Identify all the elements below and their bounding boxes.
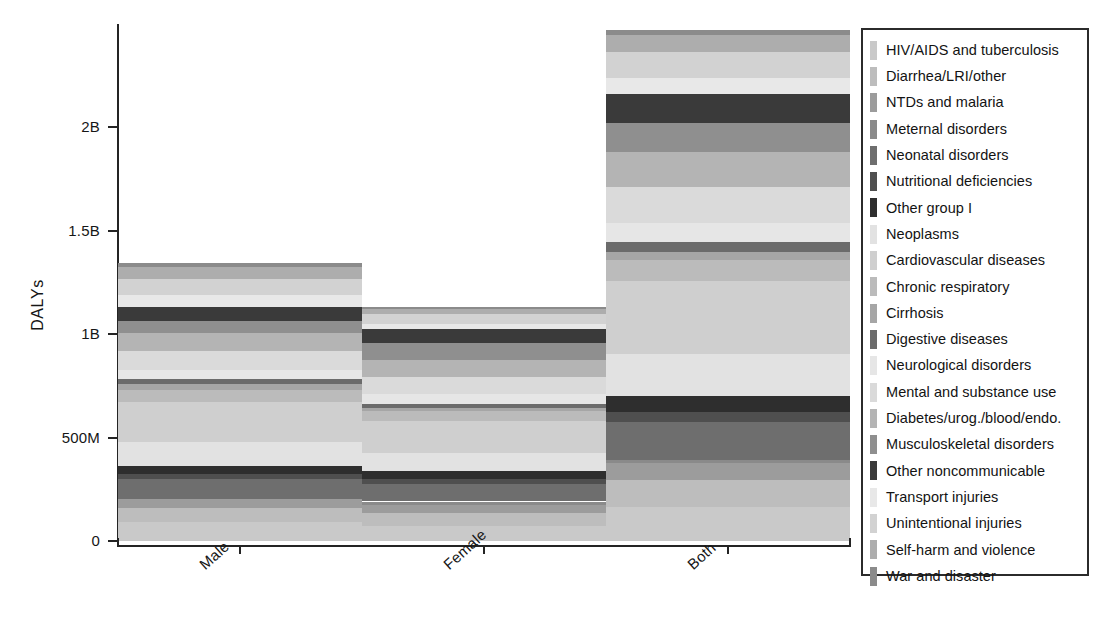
bar-group-female[interactable] (362, 24, 606, 541)
legend-swatch-icon (870, 41, 877, 60)
bar-segment[interactable] (362, 324, 606, 329)
bar-segment[interactable] (606, 252, 850, 260)
legend-item[interactable]: Self-harm and violence (863, 537, 1087, 563)
bar-segment[interactable] (362, 343, 606, 359)
legend-item[interactable]: War and disaster (863, 563, 1087, 589)
bar-segment[interactable] (362, 408, 606, 411)
legend-item[interactable]: HIV/AIDS and tuberculosis (863, 37, 1087, 63)
legend-item[interactable]: Unintentional injuries (863, 510, 1087, 536)
bar-segment[interactable] (606, 463, 850, 479)
legend-item-label: Mental and substance use (886, 385, 1056, 400)
bar-segment[interactable] (362, 394, 606, 404)
bar-segment[interactable] (118, 522, 362, 541)
bar-segment[interactable] (362, 314, 606, 324)
legend-item[interactable]: Chronic respiratory (863, 274, 1087, 300)
bar-segment[interactable] (362, 411, 606, 421)
bar-segment[interactable] (606, 223, 850, 241)
bar-segment[interactable] (118, 307, 362, 321)
bar-segment[interactable] (118, 479, 362, 499)
legend-item[interactable]: NTDs and malaria (863, 90, 1087, 116)
bar-segment[interactable] (118, 279, 362, 295)
legend-item-label: Nutritional deficiencies (886, 174, 1032, 189)
legend-swatch-icon (870, 67, 877, 86)
bar-segment[interactable] (362, 404, 606, 409)
bar-segment[interactable] (118, 333, 362, 351)
y-tick-mark (108, 333, 117, 335)
bar-segment[interactable] (362, 453, 606, 471)
y-tick-label: 1.5B (30, 222, 100, 239)
legend-item[interactable]: Musculoskeletal disorders (863, 431, 1087, 457)
bar-segment[interactable] (606, 281, 850, 354)
bar-segment[interactable] (362, 329, 606, 344)
legend-item[interactable]: Meternal disorders (863, 116, 1087, 142)
bar-group-both[interactable] (606, 24, 850, 541)
bar-segment[interactable] (118, 402, 362, 442)
legend-item[interactable]: Nutritional deficiencies (863, 168, 1087, 194)
legend-item[interactable]: Cirrhosis (863, 300, 1087, 326)
bar-segment[interactable] (606, 35, 850, 52)
legend-item[interactable]: Neoplasms (863, 221, 1087, 247)
bar-segment[interactable] (118, 295, 362, 307)
bar-segment[interactable] (606, 78, 850, 94)
bar-segment[interactable] (606, 396, 850, 413)
legend-item-label: Other group I (886, 201, 972, 216)
legend-item[interactable]: Digestive diseases (863, 326, 1087, 352)
bar-segment[interactable] (118, 499, 362, 508)
bar-segment[interactable] (606, 260, 850, 281)
bar-segment[interactable] (118, 321, 362, 333)
bar-segment[interactable] (118, 267, 362, 279)
legend-item[interactable]: Diarrhea/LRI/other (863, 63, 1087, 89)
bar-segment[interactable] (606, 94, 850, 123)
bar-segment[interactable] (606, 187, 850, 223)
bar-segment[interactable] (606, 152, 850, 187)
bar-segment[interactable] (118, 390, 362, 402)
bar-segment[interactable] (118, 442, 362, 466)
bar-segment[interactable] (362, 309, 606, 315)
legend-swatch-icon (870, 251, 877, 270)
bar-segment[interactable] (362, 360, 606, 378)
bar-segment[interactable] (362, 421, 606, 454)
bar-segment[interactable] (118, 384, 362, 390)
legend-item[interactable]: Neonatal disorders (863, 142, 1087, 168)
legend-item[interactable]: Other noncommunicable (863, 458, 1087, 484)
legend-item[interactable]: Diabetes/urog./blood/endo. (863, 405, 1087, 431)
bar-segment[interactable] (118, 379, 362, 385)
legend-swatch-icon (870, 461, 877, 480)
bar-segment[interactable] (606, 460, 850, 464)
legend-item[interactable]: Mental and substance use (863, 379, 1087, 405)
x-tick-mark (483, 545, 485, 554)
bar-segment[interactable] (606, 480, 850, 507)
bar-segment[interactable] (118, 466, 362, 474)
legend-item[interactable]: Transport injuries (863, 484, 1087, 510)
bar-segment[interactable] (118, 351, 362, 370)
bar-segment[interactable] (362, 502, 606, 506)
legend-item-label: HIV/AIDS and tuberculosis (886, 43, 1059, 58)
bar-segment[interactable] (362, 484, 606, 501)
bar-segment[interactable] (118, 370, 362, 379)
bar-segment[interactable] (362, 479, 606, 484)
bar-segment[interactable] (606, 52, 850, 78)
bar-group-male[interactable] (118, 24, 362, 541)
bar-segment[interactable] (362, 307, 606, 308)
y-tick-mark (108, 437, 117, 439)
bar-segment[interactable] (362, 513, 606, 526)
bar-segment[interactable] (362, 505, 606, 513)
x-tick-label-both: Both (684, 539, 719, 573)
legend-item[interactable]: Other group I (863, 195, 1087, 221)
bar-segment[interactable] (118, 508, 362, 522)
bar-segment[interactable] (362, 471, 606, 479)
x-axis-end-cap (117, 538, 119, 547)
legend-item[interactable]: Neurological disorders (863, 353, 1087, 379)
bar-segment[interactable] (606, 30, 850, 35)
bar-segment[interactable] (118, 263, 362, 267)
bar-segment[interactable] (606, 412, 850, 422)
bar-segment[interactable] (606, 507, 850, 541)
legend-item[interactable]: Cardiovascular diseases (863, 247, 1087, 273)
bar-segment[interactable] (606, 242, 850, 252)
bar-segment[interactable] (606, 422, 850, 460)
bar-segment[interactable] (606, 354, 850, 396)
bar-segment[interactable] (606, 123, 850, 152)
y-tick-label: 2B (30, 118, 100, 135)
bar-segment[interactable] (118, 474, 362, 479)
bar-segment[interactable] (362, 377, 606, 394)
